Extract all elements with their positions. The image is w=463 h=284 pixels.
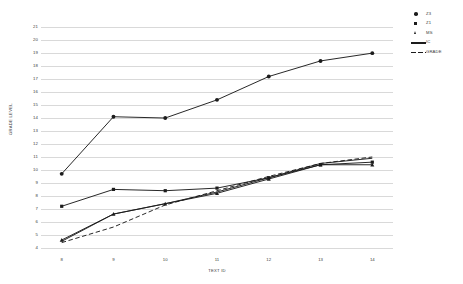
y-tick-label: 13 <box>16 129 38 133</box>
y-tick-label: 17 <box>16 77 38 81</box>
x-axis-tick-labels: 891011121314 <box>41 258 393 267</box>
legend-key <box>410 19 426 29</box>
legend-solid-line-icon <box>411 42 426 44</box>
legend-label: Z1 <box>426 21 431 25</box>
line-chart: 456789101112131415161718192021 891011121… <box>0 0 463 284</box>
data-point-z1 <box>112 188 115 191</box>
legend-label: GRADE <box>426 50 442 54</box>
y-tick-label: 21 <box>16 25 38 29</box>
data-point-z3 <box>267 75 271 79</box>
data-point-z3 <box>112 115 116 119</box>
x-axis-title: TEXT ID <box>0 269 434 273</box>
x-tick-label: 14 <box>360 258 384 262</box>
data-point-z1 <box>215 187 218 190</box>
data-point-z3 <box>60 172 64 176</box>
x-tick-label: 13 <box>309 258 333 262</box>
legend-triangle-marker-icon <box>414 31 416 34</box>
legend-label: MS <box>426 31 433 35</box>
y-tick-label: 19 <box>16 51 38 55</box>
plot-area <box>41 22 393 253</box>
legend-circle-marker-icon <box>414 12 418 16</box>
series-layer <box>41 22 393 253</box>
y-tick-label: 10 <box>16 168 38 172</box>
legend-item-z3[interactable]: Z3 <box>410 9 463 19</box>
legend-key <box>410 38 426 48</box>
y-tick-label: 9 <box>16 181 38 185</box>
x-tick-label: 8 <box>50 258 74 262</box>
data-point-z1 <box>164 189 167 192</box>
legend-item-z1[interactable]: Z1 <box>410 19 463 29</box>
series-line-z3 <box>62 53 373 174</box>
y-tick-label: 5 <box>16 233 38 237</box>
data-point-z3 <box>215 98 219 102</box>
y-tick-label: 15 <box>16 103 38 107</box>
series-line-ic <box>62 158 373 241</box>
y-tick-label: 14 <box>16 116 38 120</box>
series-line-z1 <box>62 162 373 206</box>
legend-item-ic[interactable]: IC <box>410 38 463 48</box>
y-tick-label: 8 <box>16 194 38 198</box>
legend-item-ms[interactable]: MS <box>410 28 463 38</box>
x-tick-label: 12 <box>257 258 281 262</box>
data-point-z3 <box>319 59 323 63</box>
legend-key <box>410 9 426 19</box>
y-tick-label: 7 <box>16 207 38 211</box>
data-point-z1 <box>60 205 63 208</box>
legend-key <box>410 47 426 57</box>
x-tick-label: 11 <box>205 258 229 262</box>
chart-legend: Z3Z1MSICGRADE <box>410 9 463 57</box>
legend-square-marker-icon <box>414 22 417 25</box>
y-tick-label: 16 <box>16 90 38 94</box>
legend-key <box>410 28 426 38</box>
y-axis-title: GRADE LEVEL <box>9 89 13 149</box>
legend-item-grade[interactable]: GRADE <box>410 47 463 57</box>
data-point-z3 <box>163 116 167 120</box>
legend-label: Z3 <box>426 12 431 16</box>
y-tick-label: 11 <box>16 155 38 159</box>
y-axis-tick-labels: 456789101112131415161718192021 <box>13 22 38 253</box>
y-tick-label: 4 <box>16 246 38 250</box>
series-line-grade <box>62 157 373 243</box>
y-tick-label: 6 <box>16 220 38 224</box>
series-line-ms <box>62 165 373 240</box>
y-tick-label: 20 <box>16 38 38 42</box>
legend-dashed-line-icon <box>411 52 426 54</box>
y-tick-label: 12 <box>16 142 38 146</box>
legend-label: IC <box>426 40 431 44</box>
x-tick-label: 9 <box>101 258 125 262</box>
data-point-z3 <box>370 51 374 55</box>
x-tick-label: 10 <box>153 258 177 262</box>
y-tick-label: 18 <box>16 64 38 68</box>
